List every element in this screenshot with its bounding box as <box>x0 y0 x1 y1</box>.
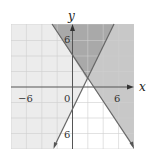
y-tick-neg6: 6 <box>64 129 70 140</box>
y-tick-6: 6 <box>64 34 70 45</box>
x-axis-label: x <box>139 80 146 94</box>
x-tick-neg6: −6 <box>18 93 33 104</box>
y-axis-label: y <box>67 9 75 23</box>
inequality-graph: y x −6 0 6 6 6 <box>0 0 149 159</box>
origin-label: 0 <box>64 93 70 104</box>
x-tick-6: 6 <box>114 93 120 104</box>
